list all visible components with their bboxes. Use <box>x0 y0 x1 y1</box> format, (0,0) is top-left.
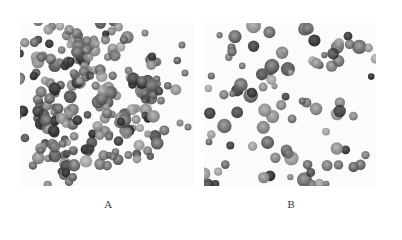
cell-image-a <box>20 23 194 186</box>
cell-image-b <box>204 23 376 186</box>
panel-label-a: A <box>98 199 118 210</box>
micrograph-panel-a <box>20 23 194 186</box>
panel-label-b: B <box>281 199 301 210</box>
micrograph-panel-b <box>204 23 376 186</box>
